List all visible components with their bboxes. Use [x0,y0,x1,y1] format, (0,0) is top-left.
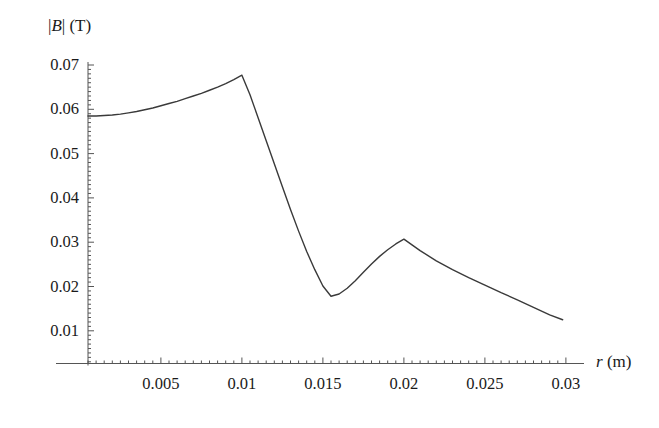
x-axis-title-symbol: r [596,352,603,371]
plot-canvas [0,0,659,428]
y-tick-label: 0.07 [50,55,79,75]
x-tick-label: 0.025 [445,374,525,394]
x-tick-label: 0.02 [364,374,444,394]
y-axis-title-suffix: | (T) [62,16,91,35]
y-axis-title: |B| (T) [48,16,91,36]
x-tick-label: 0.03 [526,374,606,394]
y-tick-label: 0.03 [50,232,79,252]
y-axis-title-symbol: B [51,16,61,35]
y-tick-label: 0.04 [50,188,79,208]
x-tick-label: 0.015 [283,374,363,394]
y-tick-label: 0.01 [50,321,79,341]
curve-group [88,75,563,320]
x-axis-title-suffix: (m) [603,352,632,371]
x-tick-label: 0.005 [121,374,201,394]
y-tick-label: 0.02 [50,277,79,297]
y-tick-label: 0.06 [50,99,79,119]
x-axis-title: r (m) [596,352,631,372]
y-tick-label: 0.05 [50,144,79,164]
field-magnitude-curve [88,75,563,320]
x-tick-label: 0.01 [202,374,282,394]
magnetic-field-plot: |B| (T) r (m) 0.070.060.050.040.030.020.… [0,0,659,428]
axes-group [56,62,584,366]
